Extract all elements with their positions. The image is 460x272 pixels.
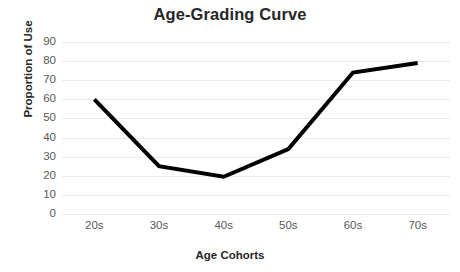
chart-title: Age-Grading Curve [0, 5, 460, 24]
y-tick-label-60: 60 [12, 94, 56, 106]
series-line-proportion-of-use [94, 63, 417, 177]
x-tick-label-30s: 30s [135, 220, 183, 232]
plot-area [62, 42, 450, 214]
y-tick-label-30: 30 [12, 151, 56, 163]
x-tick-label-50s: 50s [264, 220, 312, 232]
y-tick-label-20: 20 [12, 170, 56, 182]
y-tick-label-80: 80 [12, 55, 56, 67]
x-tick-label-60s: 60s [329, 220, 377, 232]
chart-container: Age-Grading Curve Proportion of Use 9080… [0, 0, 460, 272]
y-tick-label-0: 0 [12, 208, 56, 220]
x-axis-tick-labels: 20s30s40s50s60s70s [62, 220, 450, 238]
series-line-chart [62, 42, 450, 214]
x-tick-label-40s: 40s [200, 220, 248, 232]
y-tick-label-40: 40 [12, 132, 56, 144]
y-tick-label-70: 70 [12, 74, 56, 86]
x-axis-title: Age Cohorts [0, 249, 460, 261]
y-tick-label-50: 50 [12, 113, 56, 125]
y-tick-label-90: 90 [12, 36, 56, 48]
x-tick-label-20s: 20s [70, 220, 118, 232]
y-axis-tick-labels: 9080706050403020100 [8, 42, 56, 214]
gridline-0 [62, 214, 450, 215]
y-tick-label-10: 10 [12, 189, 56, 201]
x-tick-label-70s: 70s [394, 220, 442, 232]
